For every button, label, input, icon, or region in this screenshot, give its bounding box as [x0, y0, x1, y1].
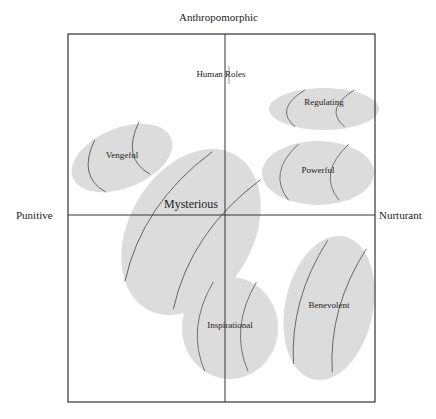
cluster-label-benevolent: Benevolent	[309, 300, 350, 310]
cluster-label-powerful: Powerful	[302, 165, 335, 175]
cluster-label-regulating: Regulating	[304, 97, 344, 107]
cluster-label-vengeful: Vengeful	[106, 150, 139, 160]
cluster-regulating	[269, 88, 379, 130]
annotation-human-roles: Human Roles	[196, 69, 246, 79]
diagram-canvas: Human Roles RegulatingVengefulPowerfulMy…	[0, 0, 436, 419]
cluster-label-inspirational: Inspirational	[207, 320, 253, 330]
cluster-label-mysterious: Mysterious	[164, 197, 218, 211]
